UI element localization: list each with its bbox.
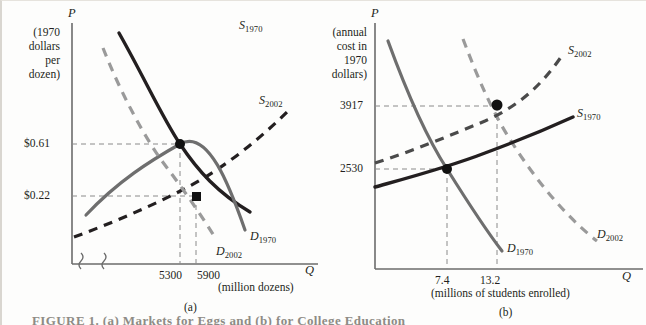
equilibrium-dot-1970-a bbox=[175, 139, 185, 149]
curve-label-s2002-b-sub: 2002 bbox=[574, 49, 592, 59]
x-tick-label-a-2: 5900 bbox=[197, 269, 220, 283]
figure-root: P (1970 dollars per dozen) $0.61 $0.22 5… bbox=[0, 0, 646, 325]
figure-caption-strip: FIGURE 1. (a) Markets for Eggs and (b) f… bbox=[2, 316, 646, 325]
y-tick-label-a-2: $0.22 bbox=[24, 189, 50, 203]
x-axis-symbol-b: Q bbox=[622, 269, 631, 284]
curve-label-s1970-a-sub: 1970 bbox=[245, 24, 263, 34]
x-tick-label-b-2: 13.2 bbox=[480, 274, 500, 288]
curve-label-s1970-b-sub: 1970 bbox=[583, 112, 601, 122]
curve-label-d2002-b: D2002 bbox=[597, 227, 623, 241]
curve-label-d2002-a: D2002 bbox=[216, 244, 242, 258]
curve-label-s2002-a-sub: 2002 bbox=[265, 99, 283, 109]
curve-s1970-b bbox=[375, 117, 573, 187]
guide-lines-a bbox=[72, 144, 196, 264]
curve-label-s1970-a: S1970 bbox=[239, 18, 263, 32]
x-axis-symbol-a: Q bbox=[305, 263, 314, 278]
panel-letter-a: (a) bbox=[184, 301, 197, 315]
curve-label-s1970-b: S1970 bbox=[577, 106, 601, 120]
curve-label-d1970-b-sub: 1970 bbox=[516, 247, 534, 257]
y-tick-label-b-1: 3917 bbox=[340, 99, 363, 113]
x-tick-label-a-1: 5300 bbox=[159, 269, 182, 283]
curve-label-d1970-a-sub: 1970 bbox=[259, 235, 277, 245]
curve-label-d2002-a-sub: 2002 bbox=[225, 250, 243, 260]
axis-break-mark-1 bbox=[79, 253, 83, 269]
curve-label-d1970-b-name: D bbox=[507, 241, 516, 255]
curve-label-d2002-a-name: D bbox=[216, 244, 225, 258]
y-tick-label-a-1: $0.61 bbox=[24, 137, 50, 151]
curve-s2002-a bbox=[74, 109, 290, 237]
curve-d1970-b bbox=[388, 41, 502, 251]
curve-label-s2002-b: S2002 bbox=[568, 43, 592, 57]
y-axis-unit-label-a: (1970 dollars per dozen) bbox=[0, 25, 60, 81]
figure-caption: FIGURE 1. (a) Markets for Eggs and (b) f… bbox=[32, 316, 405, 325]
y-axis-unit-label-b: (annual cost in 1970 dollars) bbox=[307, 25, 367, 81]
x-axis-unit-label-a: (million dozens) bbox=[218, 281, 294, 295]
y-tick-label-b-2: 2530 bbox=[340, 162, 363, 176]
equilibrium-dot-2002-a bbox=[192, 192, 201, 201]
y-axis-symbol-a: P bbox=[68, 6, 76, 21]
equilibrium-dot-1970-b bbox=[442, 164, 452, 174]
curve-s2002-b bbox=[375, 57, 561, 163]
guide-lines-b bbox=[375, 106, 497, 269]
curve-label-d1970-a: D1970 bbox=[250, 229, 276, 243]
curve-label-d2002-b-name: D bbox=[597, 227, 606, 241]
chart-panel-b: P (annual cost in 1970 dollars) 3917 253… bbox=[325, 1, 646, 325]
curve-d1970-a-main bbox=[86, 141, 245, 230]
curve-label-s2002-a: S2002 bbox=[259, 93, 283, 107]
curve-label-d1970-a-name: D bbox=[250, 229, 259, 243]
curve-d2002-b bbox=[463, 39, 597, 241]
x-tick-label-b-1: 7.4 bbox=[435, 274, 449, 288]
x-axis-unit-label-b: (millions of students enrolled) bbox=[431, 287, 570, 301]
y-axis-symbol-b: P bbox=[371, 6, 379, 21]
equilibrium-dot-2002-b bbox=[492, 100, 503, 111]
curve-label-d1970-b: D1970 bbox=[507, 241, 533, 255]
chart-panel-a: P (1970 dollars per dozen) $0.61 $0.22 5… bbox=[2, 1, 325, 325]
axis-break-mark-2 bbox=[102, 253, 106, 269]
curve-label-d2002-b-sub: 2002 bbox=[606, 233, 624, 243]
